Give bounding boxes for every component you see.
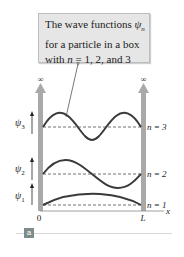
x-end-label: L (139, 213, 145, 223)
wavefunction-psi1 (43, 194, 141, 205)
psi3-arrow-icon (30, 111, 34, 116)
panel-tag: a (24, 228, 34, 238)
n3-label: n = 3 (147, 122, 167, 132)
right-wall-arrow-icon (138, 83, 149, 93)
infinity-left-label: ∞ (38, 75, 44, 84)
left-wall (38, 93, 43, 211)
callout-leader-line (66, 64, 78, 117)
left-wall-arrow-icon (35, 83, 46, 93)
wavefunction-diagram: ∞ ∞ ψ3 ψ2 ψ1 n = 3 n = 2 n = 1 0 L x (0, 0, 184, 257)
psi2-arrow-icon (30, 157, 34, 162)
wavefunction-psi3 (43, 113, 141, 140)
n1-label: n = 1 (147, 200, 167, 210)
right-wall (141, 93, 146, 211)
x-axis-label: x (165, 206, 170, 216)
x-origin-label: 0 (37, 213, 42, 223)
n2-label: n = 2 (147, 169, 167, 179)
wavefunction-psi2 (43, 160, 141, 188)
panel-divider (16, 233, 172, 234)
infinity-right-label: ∞ (141, 75, 147, 84)
psi1-arrow-icon (30, 183, 34, 188)
psi3-label: ψ3 (15, 117, 25, 131)
psi2-label: ψ2 (15, 163, 25, 177)
psi1-label: ψ1 (15, 190, 25, 204)
